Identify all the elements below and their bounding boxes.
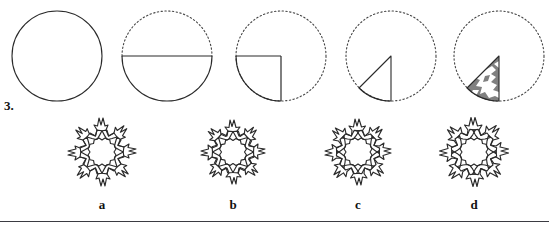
option-d[interactable] [424,108,524,196]
snowflake-c [323,117,392,186]
option-label-c: c [308,197,408,213]
option-label-d: d [424,197,524,213]
option-label-a: a [52,197,152,213]
step-half-circle [117,6,217,106]
snowflake-a [67,117,136,186]
bottom-divider [0,221,549,222]
answer-options-row [0,108,549,198]
wedge-fill-group [467,56,499,101]
folding-steps-row [0,0,549,112]
option-b[interactable] [183,108,283,196]
option-c[interactable] [308,108,408,196]
puzzle-page: 3. [0,0,549,235]
snowflake-b [200,119,266,185]
step-quarter-circle [231,6,331,106]
solid-wedge-outline [359,56,391,101]
option-a[interactable] [52,108,152,196]
option-label-b: b [183,197,283,213]
step-full-circle [7,6,107,106]
step-eighth-wedge [341,6,441,106]
dashed-top-semicircle [122,11,212,56]
solid-quarter-arc [236,56,281,101]
circle-outline [12,11,102,101]
step-cut-wedge [449,6,549,106]
snowflake-d [438,116,510,188]
solid-bottom-semicircle [122,56,212,101]
